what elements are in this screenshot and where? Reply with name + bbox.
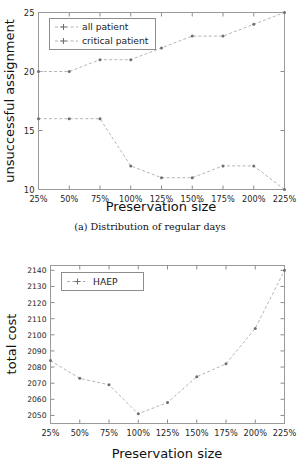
- y-tick-label-7: 2120: [27, 299, 46, 308]
- data-point-1-8: [283, 11, 286, 14]
- x-tick-label-3: 100%: [127, 428, 151, 438]
- series-line-0: [51, 270, 285, 413]
- x-tick-label-1: 50%: [60, 194, 78, 204]
- chart-a-x-axis-title: Preservation size: [106, 199, 217, 214]
- data-point-0-8: [283, 269, 286, 272]
- chart-b-y-axis-title: total cost: [4, 314, 19, 375]
- x-tick-label-0: 25%: [29, 194, 47, 204]
- y-tick-label-0: 2050: [27, 411, 46, 420]
- data-point-0-1: [78, 377, 81, 380]
- y-tick-label-8: 2130: [27, 282, 46, 291]
- chart-b-y-tick-labels: 2050206020702080209021002110212021302140: [27, 266, 46, 420]
- data-point-0-4: [160, 176, 163, 179]
- x-tick-label-8: 225%: [273, 194, 297, 204]
- x-tick-label-6: 175%: [214, 428, 238, 438]
- y-tick-label-3: 2080: [27, 363, 46, 372]
- chart-a-caption: (a) Distribution of regular days: [0, 221, 300, 232]
- x-tick-label-7: 200%: [242, 194, 266, 204]
- x-tick-label-4: 125%: [156, 428, 180, 438]
- data-point-0-2: [108, 383, 111, 386]
- data-point-0-3: [129, 164, 132, 167]
- y-tick-label-4: 2090: [27, 347, 46, 356]
- chart-b-x-axis-title: Preservation size: [112, 446, 223, 461]
- data-point-1-5: [191, 35, 194, 38]
- y-tick-label-2: 20: [24, 67, 35, 77]
- data-point-0-1: [68, 117, 71, 120]
- data-point-0-5: [195, 375, 198, 378]
- chart-a-legend-label-1: critical patient: [82, 35, 149, 46]
- chart-a-y-tick-labels: 10152025: [24, 8, 35, 195]
- data-point-1-4: [160, 46, 163, 49]
- chart-a-legend[interactable]: all patient critical patient: [50, 19, 156, 50]
- chart-a-legend-label-0: all patient: [82, 21, 129, 32]
- data-point-0-0: [37, 117, 40, 120]
- chart-a-svg: 10152025 25%50%75%100%125%150%175%200%22…: [0, 0, 300, 215]
- chart-a-y-axis-title: unsuccessful assignment: [2, 19, 17, 183]
- y-tick-label-2: 2070: [27, 379, 46, 388]
- data-point-0-0: [49, 359, 52, 362]
- data-point-0-2: [99, 117, 102, 120]
- x-tick-label-0: 25%: [41, 428, 59, 438]
- data-point-0-6: [222, 164, 225, 167]
- y-tick-label-1: 15: [24, 126, 35, 136]
- y-tick-label-9: 2140: [27, 266, 46, 275]
- y-tick-label-3: 25: [24, 8, 35, 18]
- x-tick-label-8: 225%: [273, 428, 297, 438]
- data-point-0-7: [252, 164, 255, 167]
- data-point-1-7: [252, 23, 255, 26]
- data-point-0-4: [166, 401, 169, 404]
- x-tick-label-1: 50%: [71, 428, 89, 438]
- data-point-0-6: [225, 362, 228, 365]
- data-point-0-7: [254, 327, 257, 330]
- chart-b-x-tick-labels: 25%50%75%100%125%150%175%200%225%: [41, 428, 296, 438]
- x-tick-label-2: 75%: [100, 428, 118, 438]
- x-tick-label-7: 200%: [244, 428, 268, 438]
- data-point-0-5: [191, 176, 194, 179]
- data-point-1-2: [99, 58, 102, 61]
- data-point-1-6: [222, 35, 225, 38]
- data-point-1-0: [37, 70, 40, 73]
- figure-b-total-cost: 2050206020702080209021002110212021302140…: [0, 240, 300, 465]
- chart-a-plot-area: 10152025 25%50%75%100%125%150%175%200%22…: [0, 0, 300, 215]
- figure-a-regular-days: 10152025 25%50%75%100%125%150%175%200%22…: [0, 0, 300, 240]
- x-tick-label-5: 150%: [185, 428, 209, 438]
- data-point-1-1: [68, 70, 71, 73]
- data-point-1-3: [129, 58, 132, 61]
- y-tick-label-6: 2110: [27, 315, 46, 324]
- y-tick-label-1: 2060: [27, 395, 46, 404]
- chart-b-legend[interactable]: HAEP: [62, 273, 144, 291]
- chart-b-plot-area: 2050206020702080209021002110212021302140…: [0, 240, 300, 465]
- data-point-0-3: [137, 412, 140, 415]
- chart-b-svg: 2050206020702080209021002110212021302140…: [0, 240, 300, 465]
- y-tick-label-5: 2100: [27, 331, 46, 340]
- chart-b-legend-label-0: HAEP: [93, 276, 118, 287]
- data-point-0-8: [283, 188, 286, 191]
